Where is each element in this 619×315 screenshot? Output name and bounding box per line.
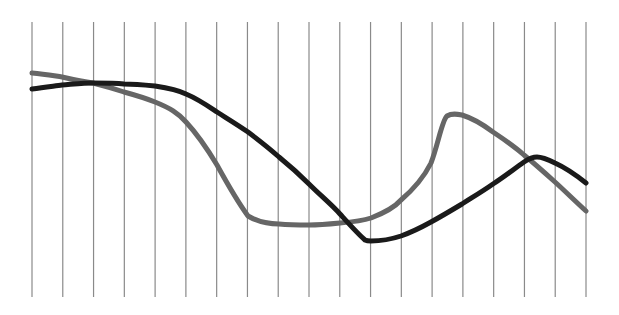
vertical-gridlines: [32, 22, 586, 297]
line-chart: [0, 0, 619, 315]
